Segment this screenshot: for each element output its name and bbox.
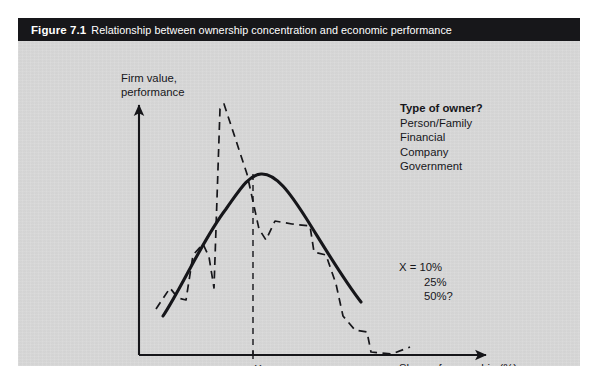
x-value-line-2: 25% bbox=[399, 275, 453, 290]
x-value-line-3: 50%? bbox=[399, 289, 453, 304]
owner-type-legend: Type of owner? Person/Family Financial C… bbox=[400, 101, 483, 174]
chart-canvas bbox=[18, 41, 580, 366]
owner-type-legend-title: Type of owner? bbox=[400, 101, 483, 116]
figure-number-label: Figure 7.1 bbox=[31, 24, 86, 36]
series-empirical-noisy bbox=[156, 104, 410, 354]
figure-caption-bar: Figure 7.1 Relationship between ownershi… bbox=[18, 18, 580, 41]
owner-type-item-financial: Financial bbox=[400, 130, 483, 145]
x-axis-label: Share of ownership (%) bbox=[399, 362, 517, 366]
x-values-annotation: X = 10% 25% 50%? bbox=[399, 260, 453, 304]
figure-caption-text: Relationship between ownership concentra… bbox=[91, 24, 452, 36]
owner-type-item-person-family: Person/Family bbox=[400, 116, 483, 131]
plot-body: Firm value, performance Share of ownersh… bbox=[18, 41, 580, 366]
y-axis-label: Firm value, performance bbox=[121, 72, 184, 99]
x-value-line-1: X = 10% bbox=[399, 260, 453, 275]
owner-type-item-company: Company bbox=[400, 145, 483, 160]
owner-type-item-government: Government bbox=[400, 159, 483, 174]
x-axis-tick-label: X bbox=[248, 363, 268, 366]
figure-panel: Figure 7.1 Relationship between ownershi… bbox=[18, 18, 580, 366]
series-smooth-inverted-u bbox=[163, 174, 361, 316]
figure-root: Figure 7.1 Relationship between ownershi… bbox=[0, 0, 604, 388]
